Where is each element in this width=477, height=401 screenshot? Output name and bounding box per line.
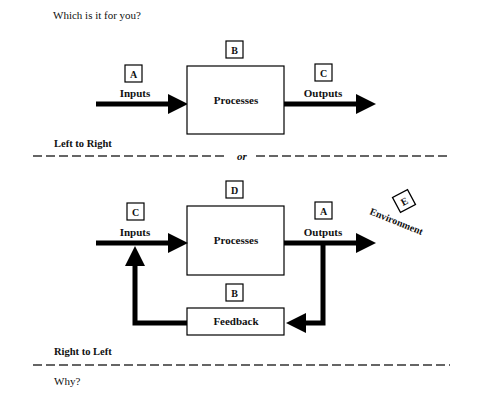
output-label-2: Outputs bbox=[304, 226, 343, 238]
process-tag: B bbox=[231, 45, 238, 56]
environment-tag-group: E bbox=[393, 190, 416, 213]
feedback-label: Feedback bbox=[213, 315, 259, 327]
input-label: Inputs bbox=[120, 87, 151, 99]
output-label: Outputs bbox=[304, 87, 343, 99]
separator-or: or bbox=[237, 150, 248, 162]
output-tag-2: A bbox=[320, 206, 328, 217]
why-text: Why? bbox=[54, 375, 80, 387]
bottom-diagram: D Processes C Inputs A Outputs E Environ… bbox=[96, 181, 425, 335]
top-diagram: A Inputs B Processes C Outputs bbox=[96, 41, 366, 134]
top-caption: Left to Right bbox=[54, 138, 112, 149]
input-tag: A bbox=[130, 69, 138, 80]
diagram-canvas: Which is it for you? A Inputs B Processe… bbox=[0, 0, 477, 401]
feedback-tag: B bbox=[231, 288, 238, 299]
input-tag-2: C bbox=[132, 207, 139, 218]
process-label: Processes bbox=[214, 94, 259, 106]
feedback-out-arrow bbox=[135, 256, 187, 323]
process-tag-2: D bbox=[231, 185, 238, 196]
environment-label: Environment bbox=[368, 206, 425, 238]
feedback-in-arrow bbox=[296, 243, 323, 323]
process-label-2: Processes bbox=[214, 234, 259, 246]
bottom-caption: Right to Left bbox=[54, 346, 112, 357]
output-tag: C bbox=[320, 68, 327, 79]
input-label-2: Inputs bbox=[120, 226, 151, 238]
question-text: Which is it for you? bbox=[53, 9, 141, 21]
